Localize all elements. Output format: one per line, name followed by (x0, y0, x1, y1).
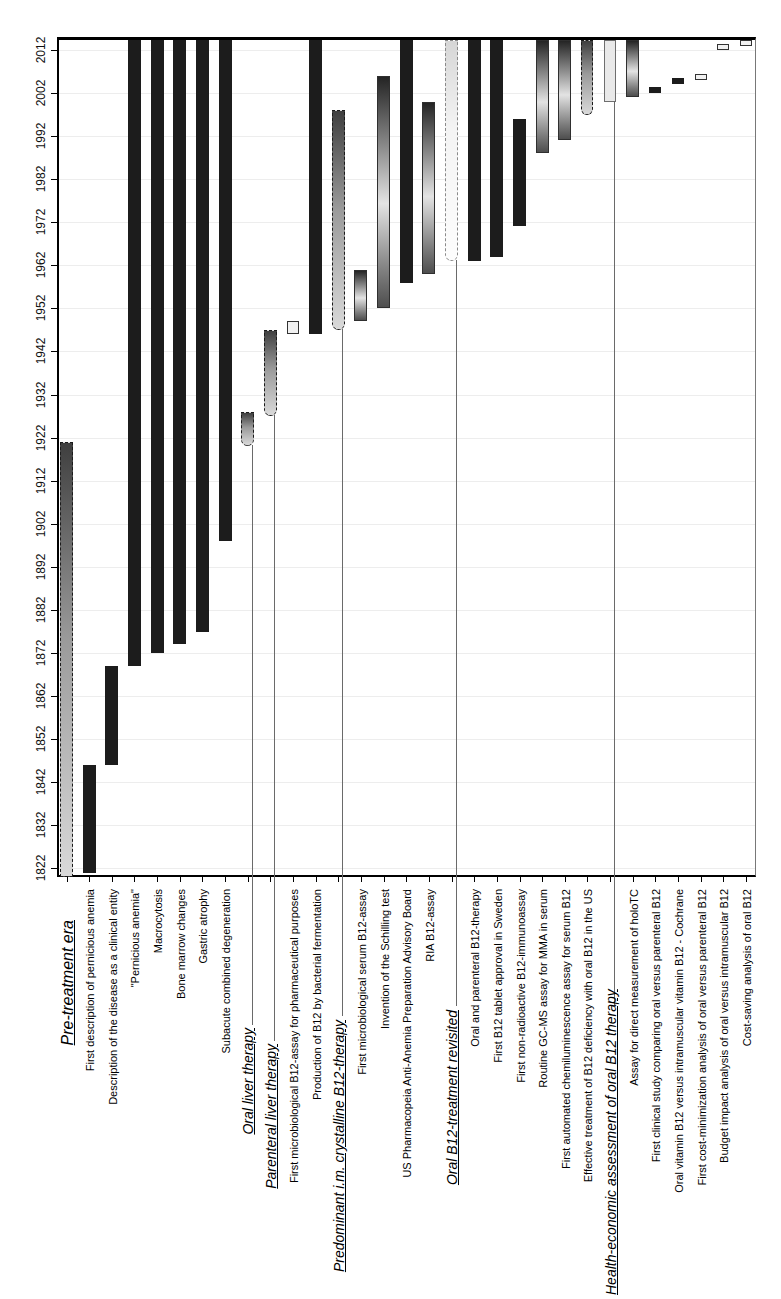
category-axis-tick (429, 877, 430, 882)
category-axis-tick (542, 877, 543, 882)
category-label: First clinical study comparing oral vers… (649, 889, 663, 1295)
timeline-bar (264, 330, 277, 416)
decade-gridline (59, 825, 755, 826)
category-axis-tick (202, 877, 203, 882)
timeline-bar (60, 442, 73, 877)
category-axis-tick (587, 877, 588, 882)
category-label: First non-radioactive B12-immunoassay (514, 889, 528, 1295)
timeline-bar (332, 110, 345, 330)
timeline-bar (309, 40, 322, 334)
year-axis-tick (51, 567, 57, 568)
category-axis-tick (723, 877, 724, 882)
era-heading-label: Pre-treatment era (58, 920, 77, 1295)
category-label: First description of pernicious anemia (83, 889, 97, 1295)
category-axis-tick (610, 877, 611, 882)
category-axis-tick (701, 877, 702, 882)
year-axis-tick (51, 739, 57, 740)
timeline-bar (241, 412, 254, 447)
category-axis-tick (270, 877, 271, 882)
timeline-bar (717, 44, 729, 51)
era-leader-line (614, 101, 615, 1006)
year-axis-tick (51, 93, 57, 94)
category-label: First microbiological serum B12-assay (355, 889, 369, 1295)
timeline-bar (128, 40, 141, 666)
category-axis-tick (67, 877, 68, 882)
category-label: First cost-minimization analysis of oral… (695, 889, 709, 1295)
category-axis-tick (134, 877, 135, 882)
decade-gridline (59, 868, 755, 869)
year-axis-tick (51, 179, 57, 180)
category-axis-tick (474, 877, 475, 882)
decade-gridline (59, 696, 755, 697)
category-axis-tick (180, 877, 181, 882)
year-axis-tick (51, 481, 57, 482)
category-axis-tick (746, 877, 747, 882)
category-axis-tick (678, 877, 679, 882)
timeline-bar (558, 40, 571, 140)
category-label: Subacute combined degeneration (219, 889, 233, 1295)
category-label: RIA B12-assay (423, 889, 437, 1295)
category-axis-tick (452, 877, 453, 882)
category-axis-tick (293, 877, 294, 882)
era-heading-label: Parenteral liver therapy (263, 1044, 280, 1295)
category-label: Oral and parenteral B12-therapy (468, 889, 482, 1295)
timeline-bar (196, 40, 209, 632)
category-label: Effective treatment of B12 deficiency wi… (581, 889, 595, 1295)
category-axis-tick (655, 877, 656, 882)
category-label: Routine GC-MS assay for MMA in serum (536, 889, 550, 1295)
category-axis-tick (248, 877, 249, 882)
decade-gridline (59, 782, 755, 783)
year-axis-tick (51, 524, 57, 525)
timeline-bar (672, 78, 684, 85)
year-axis-tick (51, 351, 57, 352)
year-axis-tick (51, 395, 57, 396)
category-label: First microbiological B12-assay for phar… (287, 889, 301, 1295)
year-axis-tick (51, 653, 57, 654)
category-label: Oral vitamin B12 versus intramuscular vi… (672, 889, 686, 1295)
year-axis-tick (51, 136, 57, 137)
category-axis-tick (157, 877, 158, 882)
timeline-bar (354, 270, 367, 322)
year-axis-tick (51, 265, 57, 266)
timeline-bar (422, 102, 435, 274)
year-axis-tick (51, 308, 57, 309)
decade-gridline (59, 653, 755, 654)
timeline-bar (626, 40, 639, 97)
timeline-bar (649, 87, 661, 94)
category-label: Assay for direct measurement of holoTC (627, 889, 641, 1295)
era-leader-line (274, 415, 275, 1041)
timeline-bar (219, 40, 232, 541)
category-axis-tick (406, 877, 407, 882)
era-leader-line (456, 260, 457, 1006)
category-axis-tick (338, 877, 339, 882)
timeline-bar (287, 321, 299, 334)
timeline-bar (173, 40, 186, 644)
year-axis-tick (51, 696, 57, 697)
year-axis-tick (51, 610, 57, 611)
timeline-bar (604, 40, 616, 102)
category-axis-tick (316, 877, 317, 882)
timeline-bar (151, 40, 164, 653)
category-label: Cost-saving analysis of oral B12 (740, 889, 754, 1295)
category-axis-tick (633, 877, 634, 882)
category-axis-tick (112, 877, 113, 882)
timeline-bar (105, 666, 118, 765)
era-leader-line (342, 329, 343, 1016)
year-axis-tick (51, 868, 57, 869)
year-axis-tick (51, 438, 57, 439)
category-axis-tick (520, 877, 521, 882)
category-axis-tick (225, 877, 226, 882)
timeline-bar (581, 40, 593, 115)
year-axis-tick (51, 782, 57, 783)
timeline-bar (490, 40, 503, 257)
category-label: Bone marrow changes (174, 889, 188, 1295)
category-axis-tick (565, 877, 566, 882)
category-label: Budget impact analysis of oral versus in… (717, 889, 731, 1295)
category-label: First B12 tablet approval in Sweden (491, 889, 505, 1295)
decade-gridline (59, 739, 755, 740)
timeline-bar (400, 40, 413, 283)
timeline-bar (377, 76, 390, 309)
category-axis-tick (384, 877, 385, 882)
year-axis-tick (51, 222, 57, 223)
era-heading-label: Predominant i.m. crystalline B12-therapy (331, 1020, 348, 1295)
